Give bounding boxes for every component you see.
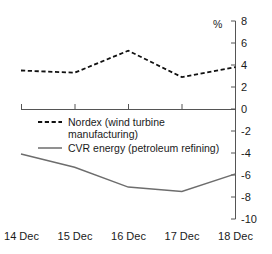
y-tick-label: 2 (241, 81, 247, 93)
y-tick-label: -4 (241, 147, 251, 159)
legend-label-nordex-line1: Nordex (wind turbine (68, 116, 165, 128)
x-tick-label: 15 Dec (58, 230, 93, 242)
chart-canvas: 8 6 4 2 0 -2 -4 -6 -8 -10 % No (0, 0, 272, 254)
x-tick-label: 14 Dec (4, 230, 39, 242)
y-tick-label: 8 (241, 15, 247, 27)
y-tick-label: 4 (241, 59, 247, 71)
x-axis-labels: 14 Dec 15 Dec 16 Dec 17 Dec 18 Dec (4, 230, 253, 242)
line-chart: 8 6 4 2 0 -2 -4 -6 -8 -10 % No (0, 0, 272, 254)
y-tick-label: -6 (241, 169, 251, 181)
series-line-nordex (21, 51, 236, 77)
x-axis-ticks (22, 104, 183, 110)
x-tick-label: 16 Dec (111, 230, 146, 242)
y-axis-unit-label: % (213, 18, 222, 30)
x-tick-label: 17 Dec (165, 230, 200, 242)
y-axis-ticks (231, 21, 236, 219)
y-tick-label: -2 (241, 125, 251, 137)
y-tick-label: 6 (241, 37, 247, 49)
series-line-cvr (21, 154, 236, 191)
legend-label-cvr: CVR energy (petroleum refining) (68, 142, 219, 154)
chart-legend: Nordex (wind turbine manufacturing) CVR … (38, 116, 219, 154)
legend-label-nordex-line2: manufacturing) (68, 128, 138, 140)
y-tick-label: -10 (241, 213, 257, 225)
y-axis-tick-labels: 8 6 4 2 0 -2 -4 -6 -8 -10 (241, 15, 257, 225)
y-tick-label: -8 (241, 191, 251, 203)
x-tick-label: 18 Dec (218, 230, 253, 242)
y-tick-label: 0 (241, 103, 247, 115)
